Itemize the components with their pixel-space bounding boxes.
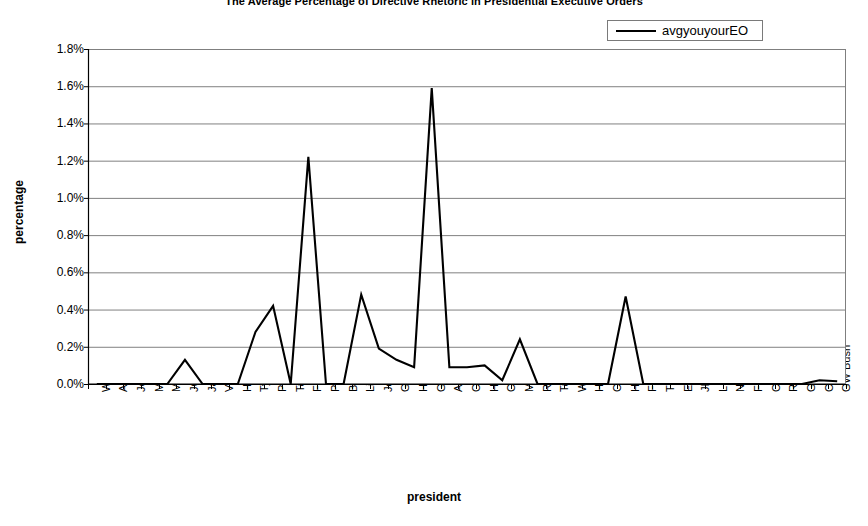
chart-container: The Average Percentage of Directive Rhet… [0, 0, 868, 526]
plot-background [88, 49, 846, 384]
plot-area [0, 0, 868, 526]
